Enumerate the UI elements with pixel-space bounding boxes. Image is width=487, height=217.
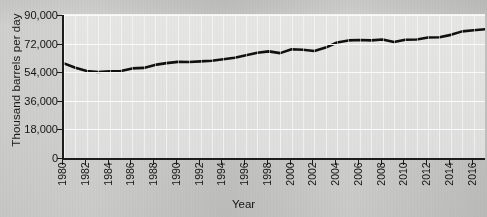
x-tick-label: 2004 bbox=[329, 154, 341, 194]
y-tick-mark bbox=[57, 72, 62, 73]
x-tick-label: 1990 bbox=[170, 154, 182, 194]
x-tick-label: 2008 bbox=[375, 154, 387, 194]
y-tick-mark bbox=[57, 101, 62, 102]
x-tick-label: 2006 bbox=[352, 154, 364, 194]
x-tick-label: 2000 bbox=[284, 154, 296, 194]
y-tick-mark bbox=[57, 15, 62, 16]
line-chart: Thousand barrels per day 018,00036,00054… bbox=[0, 0, 487, 217]
x-tick-label: 1992 bbox=[193, 154, 205, 194]
x-tick-label: 1994 bbox=[215, 154, 227, 194]
x-axis-title: Year bbox=[0, 198, 487, 210]
x-tick-label: 2016 bbox=[466, 154, 478, 194]
x-tick-label: 1980 bbox=[56, 154, 68, 194]
x-tick-label: 2014 bbox=[443, 154, 455, 194]
x-tick-label: 1986 bbox=[124, 154, 136, 194]
x-axis-ticks: 1980198219841986198819901992199419961998… bbox=[0, 0, 487, 217]
x-tick-label: 1988 bbox=[147, 154, 159, 194]
x-tick-label: 2012 bbox=[420, 154, 432, 194]
x-tick-label: 2010 bbox=[397, 154, 409, 194]
x-tick-label: 1996 bbox=[238, 154, 250, 194]
x-tick-label: 2002 bbox=[306, 154, 318, 194]
x-tick-label: 1984 bbox=[102, 154, 114, 194]
x-tick-label: 1982 bbox=[79, 154, 91, 194]
x-tick-label: 1998 bbox=[261, 154, 273, 194]
y-tick-mark bbox=[57, 44, 62, 45]
y-tick-mark bbox=[57, 129, 62, 130]
y-tick-mark bbox=[57, 158, 62, 159]
